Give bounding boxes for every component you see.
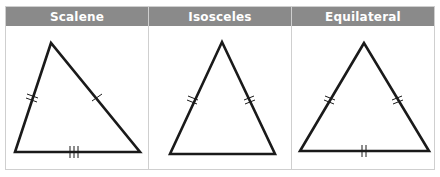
header-scalene: Scalene [6, 7, 148, 26]
column-equilateral: Equilateral [292, 7, 434, 169]
isosceles-triangle-icon [149, 26, 292, 171]
equilateral-figure [292, 26, 434, 169]
triangle-types-table: Scalene Isosceles [5, 6, 435, 170]
scalene-figure [6, 26, 148, 169]
scalene-triangle-icon [6, 26, 149, 171]
header-isosceles: Isosceles [149, 7, 291, 26]
column-isosceles: Isosceles [149, 7, 292, 169]
equilateral-triangle-icon [292, 26, 435, 171]
isosceles-figure [149, 26, 291, 169]
column-scalene: Scalene [6, 7, 149, 169]
header-equilateral: Equilateral [292, 7, 434, 26]
